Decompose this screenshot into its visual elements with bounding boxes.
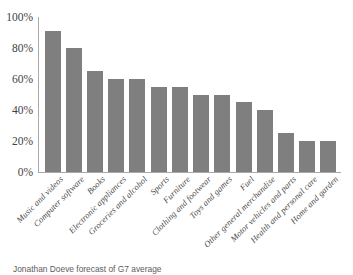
bar bbox=[214, 95, 230, 173]
bar bbox=[278, 133, 294, 172]
bar bbox=[151, 87, 167, 172]
y-tick-label: 40% bbox=[12, 104, 33, 116]
y-tick-label: 80% bbox=[12, 42, 33, 54]
y-tick-label: 0% bbox=[18, 166, 33, 178]
y-tick-label: 60% bbox=[12, 73, 33, 85]
chart-source-note: Jonathan Doeve forecast of G7 average bbox=[13, 264, 343, 275]
bar bbox=[129, 79, 145, 172]
bar bbox=[172, 87, 188, 172]
bar bbox=[66, 48, 82, 172]
bar bbox=[257, 110, 273, 172]
bar-chart-figure: 100%80%60%40%20%0% Music and videosCompu… bbox=[0, 0, 353, 275]
y-tick-label: 100% bbox=[6, 11, 33, 23]
bar bbox=[236, 102, 252, 172]
y-axis-tick-labels: 100%80%60%40%20%0% bbox=[0, 17, 36, 173]
x-axis-line bbox=[38, 172, 341, 173]
y-tick-label: 20% bbox=[12, 135, 33, 147]
bar bbox=[320, 141, 336, 172]
chart-title bbox=[22, 0, 222, 1]
x-axis-tick-labels: Music and videosComputer softwareBooksEl… bbox=[38, 174, 353, 262]
bar bbox=[87, 71, 103, 172]
bar bbox=[108, 79, 124, 172]
bar bbox=[299, 141, 315, 172]
bar bbox=[193, 95, 209, 173]
bars-layer bbox=[38, 17, 341, 172]
plot-area bbox=[38, 17, 341, 172]
bar bbox=[45, 31, 61, 172]
